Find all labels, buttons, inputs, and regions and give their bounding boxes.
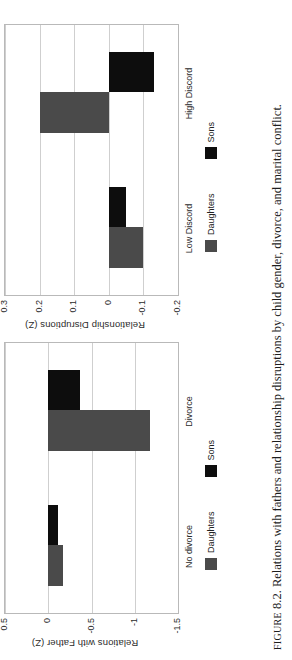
gridline: [40, 25, 41, 295]
legend-swatch-daughters-icon: [205, 240, 217, 252]
bar-no-divorce-sons: [48, 505, 58, 546]
y-axis-tick-label: 0: [103, 300, 113, 330]
figure-caption: FIGURE 8.2. Relations with fathers and r…: [270, 6, 286, 650]
legend-swatch-sons-icon: [205, 147, 217, 159]
legend-item-daughters: Daughters: [205, 511, 217, 570]
y-axis-tick-label: 0.5: [0, 618, 9, 648]
x-axis-category-label: No divorce: [184, 525, 194, 568]
legend-item-sons: Sons: [205, 122, 217, 160]
gridline: [5, 343, 6, 613]
gridline: [92, 343, 93, 613]
x-axis-category-label: Low Discord: [184, 204, 194, 254]
legend-swatch-daughters-icon: [205, 558, 217, 570]
legend: Daughters Sons: [205, 24, 217, 296]
bar-low-discord-daughters: [109, 228, 144, 269]
x-axis-category-label: Divorce: [184, 396, 194, 427]
figure-caption-label: FIGURE: [272, 612, 283, 650]
y-axis-tick-label: -0.5: [86, 618, 96, 648]
bar-high-discord-daughters: [40, 93, 109, 134]
gridline: [178, 25, 179, 295]
figure-caption-text: Relations with fathers and relationship …: [270, 104, 284, 587]
plot-area: [4, 24, 179, 296]
legend-item-daughters: Daughters: [205, 193, 217, 252]
chart-panel-relationship-disruptions: Relationship Disruptions (Z) 0.30.20.10-…: [0, 20, 232, 330]
legend-label-sons: Sons: [206, 122, 216, 143]
y-axis-tick-label: -1: [129, 618, 139, 648]
legend-label-sons: Sons: [206, 440, 216, 461]
figure-caption-number: 8.2.: [270, 590, 284, 609]
figure: Relations with Father (Z) 0.50-0.5-1-1.5…: [0, 0, 292, 660]
plot-area-wrapper: 0.30.20.10-0.1-0.2Low DiscordHigh Discor…: [4, 24, 179, 296]
legend-label-daughters: Daughters: [206, 511, 216, 553]
chart-panel-relations-with-father: Relations with Father (Z) 0.50-0.5-1-1.5…: [0, 338, 232, 648]
legend-label-daughters: Daughters: [206, 193, 216, 235]
legend: Daughters Sons: [205, 342, 217, 614]
gridline: [178, 343, 179, 613]
y-axis-tick-label: 0: [42, 618, 52, 648]
y-axis-tick-label: 0.1: [68, 300, 78, 330]
bar-divorce-sons: [48, 370, 80, 411]
y-axis-tick-label: -0.2: [172, 300, 182, 330]
legend-swatch-sons-icon: [205, 465, 217, 477]
bar-divorce-daughters: [48, 411, 150, 452]
y-axis-tick-label: -0.1: [137, 300, 147, 330]
y-axis-tick-label: -1.5: [172, 618, 182, 648]
legend-item-sons: Sons: [205, 440, 217, 478]
plot-area: [4, 342, 179, 614]
chart-panels: Relations with Father (Z) 0.50-0.5-1-1.5…: [0, 0, 232, 660]
gridline: [135, 343, 136, 613]
gridline: [74, 25, 75, 295]
bar-low-discord-sons: [109, 187, 126, 228]
x-axis-category-label: High Discord: [184, 68, 194, 120]
bar-high-discord-sons: [109, 52, 154, 93]
plot-area-wrapper: 0.50-0.5-1-1.5No divorceDivorce: [4, 342, 179, 614]
rotated-figure-wrapper: Relations with Father (Z) 0.50-0.5-1-1.5…: [0, 0, 292, 660]
bar-no-divorce-daughters: [48, 546, 63, 587]
y-axis-tick-label: 0.3: [0, 300, 9, 330]
gridline: [5, 25, 6, 295]
y-axis-tick-label: 0.2: [34, 300, 44, 330]
